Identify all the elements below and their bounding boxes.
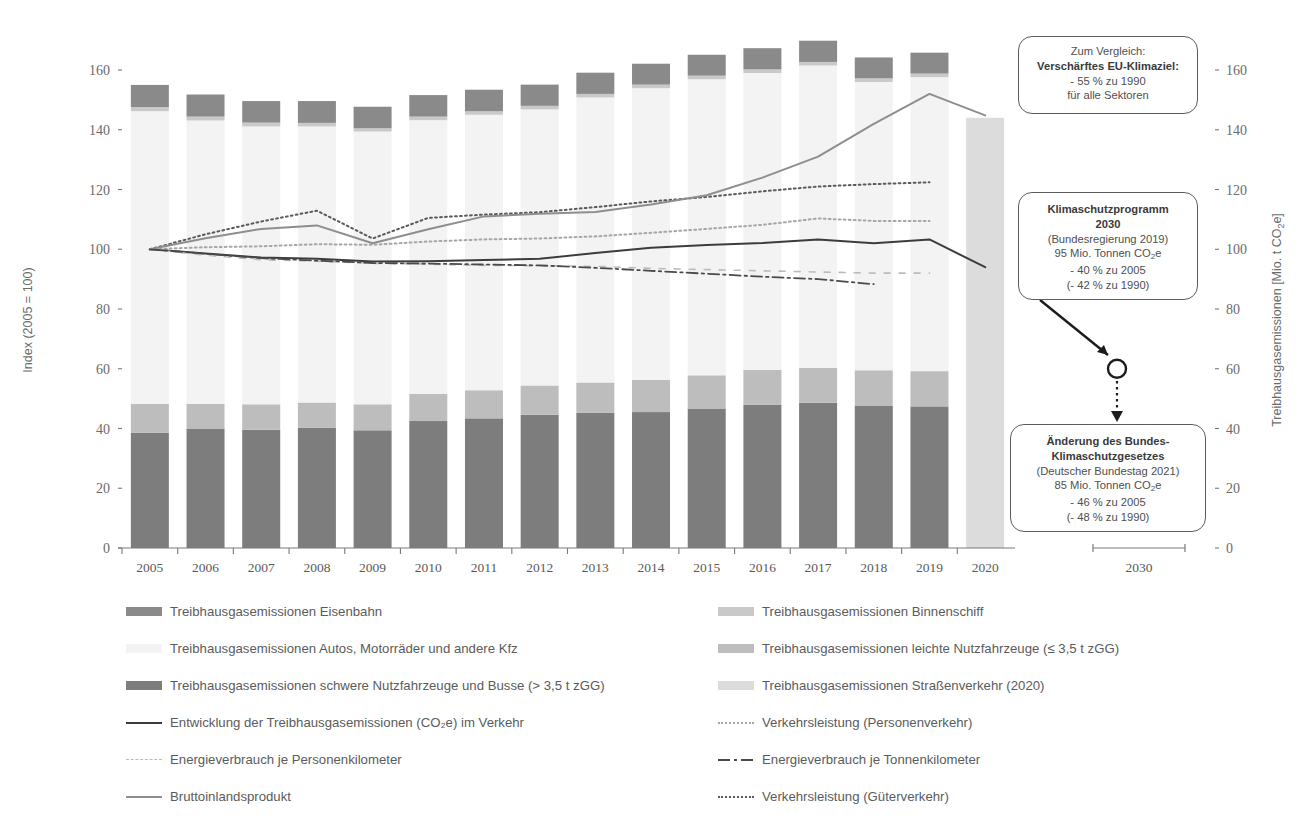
legend-item[interactable]: Bruttoinlandsprodukt [126, 789, 291, 804]
legend-item[interactable]: Treibhausgasemissionen Eisenbahn [126, 604, 382, 619]
callout-bundes-klimaschutzgesetz: Änderung des Bundes- Klimaschutzgesetzes… [1010, 424, 1206, 532]
legend-line-icon [718, 717, 754, 728]
legend-item[interactable]: Verkehrsleistung (Personenverkehr) [718, 715, 972, 730]
legend-item-label: Treibhausgasemissionen Eisenbahn [170, 604, 382, 619]
y2-axis-tick-label: 120 [1226, 183, 1247, 198]
callout-eu-line4: für alle Sektoren [1027, 88, 1189, 103]
callout-eu-line2: Verschärftes EU-Klimaziel: [1027, 59, 1189, 74]
legend-item-label: Energieverbrauch je Personenkilometer [170, 752, 402, 767]
legend-item[interactable]: Treibhausgasemissionen schwere Nutzfahrz… [126, 678, 605, 693]
x-axis-tick-label: 2014 [638, 560, 665, 575]
bar-segment [465, 90, 503, 112]
callout-bksg-line1: Änderung des Bundes- [1019, 434, 1197, 449]
legend-item-label: Bruttoinlandsprodukt [170, 789, 291, 804]
legend-swatch-icon [718, 644, 754, 653]
y-axis-tick-label: 80 [96, 302, 110, 317]
legend-swatch-icon [126, 644, 162, 653]
bar-segment [298, 101, 336, 123]
y2-axis-tick-label: 80 [1226, 302, 1240, 317]
legend-item[interactable]: Treibhausgasemissionen Straßenverkehr (2… [718, 678, 1044, 693]
legend-item-label: Verkehrsleistung (Personenverkehr) [762, 715, 972, 730]
legend-line-icon [126, 754, 162, 765]
callout-bksg-line2: Klimaschutzgesetzes [1019, 449, 1197, 464]
bar-segment [743, 48, 781, 69]
legend-item[interactable]: Verkehrsleistung (Güterverkehr) [718, 789, 949, 804]
bar-segment [855, 57, 893, 78]
bar-segment [521, 385, 559, 414]
legend-item[interactable]: Entwicklung der Treibhausgasemissionen (… [126, 715, 524, 730]
bar-segment [298, 126, 336, 402]
bar-segment [632, 380, 670, 412]
bar-segment [632, 64, 670, 85]
y2-axis-tick-label: 40 [1226, 422, 1240, 437]
bar-segment [799, 41, 837, 62]
y2-axis-tick-label: 20 [1226, 481, 1240, 496]
legend-item[interactable]: Energieverbrauch je Tonnenkilometer [718, 752, 980, 767]
callout-klimaschutzprogramm-2030: Klimaschutzprogramm 2030 (Bundesregierun… [1018, 192, 1198, 300]
y2-axis-title: Treibhausgasemissionen [Mio. t CO2e] [1270, 213, 1286, 427]
legend-item-label: Treibhausgasemissionen schwere Nutzfahrz… [170, 678, 605, 693]
legend-line-icon [126, 791, 162, 802]
legend-item[interactable]: Treibhausgasemissionen Autos, Motorräder… [126, 641, 518, 656]
legend-item[interactable]: Treibhausgasemissionen leichte Nutzfahrz… [718, 641, 1119, 656]
bar-segment [576, 413, 614, 548]
x-axis-tick-label: 2006 [192, 560, 219, 575]
x-axis-tick-label: 2011 [471, 560, 498, 575]
callout-bksg-line5: - 46 % zu 2005 [1019, 495, 1197, 510]
bar-segment [465, 115, 503, 390]
x-axis-tick-label: 2019 [916, 560, 943, 575]
bar-segment [354, 430, 392, 548]
bar-segment [688, 55, 726, 76]
legend-swatch-icon [718, 681, 754, 690]
y2-axis-tick-label: 160 [1226, 63, 1247, 78]
callout-ksp-line5: - 40 % zu 2005 [1027, 263, 1189, 278]
bar-segment [242, 123, 280, 127]
bar-segment [632, 88, 670, 380]
x-axis-future-segment [1093, 544, 1185, 552]
bar-segment [242, 126, 280, 404]
bar-segment [632, 412, 670, 548]
y2-axis-tick-label: 60 [1226, 362, 1240, 377]
x-axis-tick-label: 2010 [415, 560, 442, 575]
callout-bksg-line4: 85 Mio. Tonnen CO2e [1019, 478, 1197, 495]
bar-segment [799, 66, 837, 368]
bar-segment [521, 85, 559, 106]
arrow-ksp-to-marker [1040, 300, 1108, 355]
bar-segment [465, 390, 503, 418]
y-axis-title: Index (2005 = 100) [21, 267, 35, 372]
callout-eu-line1: Zum Vergleich: [1027, 44, 1189, 59]
x-axis-tick-label: 2018 [860, 560, 887, 575]
bar-segment [910, 371, 948, 406]
bar-segment [298, 403, 336, 428]
bar-segment [187, 404, 225, 428]
x-axis-tick-label-2030: 2030 [1126, 560, 1153, 575]
bar-segment [187, 94, 225, 116]
bar-segment [131, 111, 169, 404]
callout-ksp-line4: 95 Mio. Tonnen CO2e [1027, 246, 1189, 263]
bar-segment [409, 421, 447, 548]
bar-segment [910, 406, 948, 548]
bar-segment [632, 85, 670, 89]
legend-item-label: Treibhausgasemissionen Binnenschiff [762, 604, 983, 619]
x-axis-tick-label: 2007 [248, 560, 275, 575]
bar-segment [131, 433, 169, 548]
legend-line-icon [126, 717, 162, 728]
bar-segment [521, 415, 559, 548]
legend-item-label: Treibhausgasemissionen leichte Nutzfahrz… [762, 641, 1119, 656]
x-axis-tick-label: 2020 [972, 560, 999, 575]
callout-ksp-line6: (- 42 % zu 1990) [1027, 278, 1189, 293]
bar-segment [187, 429, 225, 549]
legend-item[interactable]: Energieverbrauch je Personenkilometer [126, 752, 402, 767]
bar-segment [799, 62, 837, 66]
y2-axis-tick-label: 100 [1226, 242, 1247, 257]
bar-segment [799, 403, 837, 548]
bar-segment [354, 128, 392, 131]
y-axis-tick-label: 20 [96, 481, 110, 496]
legend-item[interactable]: Treibhausgasemissionen Binnenschiff [718, 604, 983, 619]
callout-ksp-line3: (Bundesregierung 2019) [1027, 232, 1189, 247]
bar-segment [576, 94, 614, 98]
x-axis-tick-label: 2005 [136, 560, 163, 575]
y2-axis-tick-label: 140 [1226, 123, 1247, 138]
y-axis-tick-label: 160 [89, 63, 110, 78]
legend-swatch-icon [126, 607, 162, 616]
